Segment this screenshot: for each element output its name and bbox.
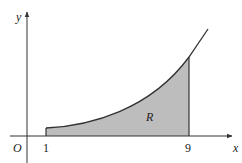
- diagram-canvas: y x O 1 9 R: [0, 0, 242, 163]
- origin-label: O: [13, 141, 22, 155]
- x-axis-label: x: [232, 141, 239, 155]
- region-r: [46, 57, 189, 136]
- region-label: R: [145, 110, 154, 124]
- y-axis-label: y: [15, 10, 22, 24]
- tick-label-9: 9: [185, 141, 191, 155]
- tick-label-1: 1: [43, 141, 49, 155]
